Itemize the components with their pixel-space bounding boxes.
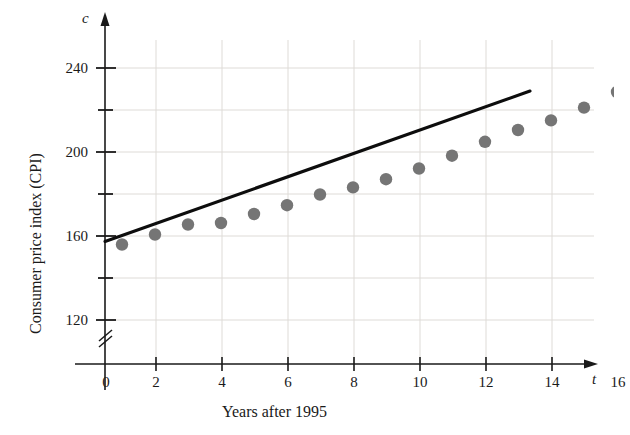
data-point xyxy=(149,228,161,240)
x-tick-label-6: 6 xyxy=(277,375,299,390)
data-point xyxy=(479,136,491,148)
x-tick-label-8: 8 xyxy=(343,375,365,390)
y-tick-label-240: 240 xyxy=(40,61,88,76)
data-point xyxy=(248,208,260,220)
x-tick-label-12: 12 xyxy=(471,375,501,390)
data-point xyxy=(512,124,524,136)
x-tick-label-0: 0 xyxy=(95,375,117,390)
y-tick-label-200: 200 xyxy=(40,145,88,160)
data-point xyxy=(446,150,458,162)
y-tick-label-160: 160 xyxy=(40,229,88,244)
data-point xyxy=(611,86,614,98)
y-tick-label-120: 120 xyxy=(40,313,88,328)
x-tick-label-4: 4 xyxy=(211,375,233,390)
data-point xyxy=(413,162,425,174)
x-tick-label-14: 14 xyxy=(537,375,567,390)
x-tick-label-16: 16 xyxy=(603,375,630,390)
x-axis xyxy=(75,360,598,369)
data-point xyxy=(116,238,128,250)
data-point xyxy=(182,218,194,230)
data-points xyxy=(116,86,614,251)
data-point xyxy=(281,199,293,211)
x-tick-label-2: 2 xyxy=(145,375,167,390)
data-point xyxy=(347,181,359,193)
y-axis-title: Consumer price index (CPI) xyxy=(28,153,44,334)
x-axis-variable-label: t xyxy=(592,372,596,387)
x-tick-label-10: 10 xyxy=(405,375,435,390)
data-point xyxy=(545,114,557,126)
data-point xyxy=(314,188,326,200)
data-point xyxy=(578,101,590,113)
grid-lines xyxy=(105,40,594,364)
x-axis-title: Years after 1995 xyxy=(222,404,327,420)
data-point xyxy=(215,217,227,229)
regression-line xyxy=(105,91,530,242)
y-axis-variable-label: c xyxy=(82,11,89,26)
y-tick-marks xyxy=(96,68,116,320)
data-point xyxy=(380,173,392,185)
